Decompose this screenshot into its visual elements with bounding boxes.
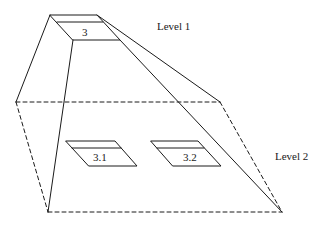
level-1-label: Level 1 (157, 21, 190, 32)
projection-lines (16, 15, 282, 212)
diagram-lines (0, 0, 330, 228)
node-3-2-label: 3.2 (183, 152, 197, 163)
node-3-1-label: 3.1 (93, 152, 107, 163)
node-3-label: 3 (82, 27, 88, 38)
level-2-label: Level 2 (275, 151, 308, 162)
hierarchy-diagram: 3 3.1 3.2 Level 1 Level 2 (0, 0, 330, 228)
